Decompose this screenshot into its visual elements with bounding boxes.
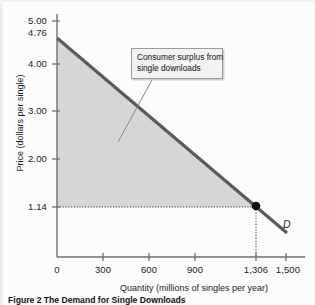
x-tick-label-1306: 1,306 <box>236 264 276 275</box>
equilibrium-point-marker <box>252 202 261 211</box>
x-tick-label-600: 600 <box>134 264 164 275</box>
x-tick-label-1500: 1,500 <box>271 264 305 275</box>
x-axis-title: Quantity (millions of singles per year) <box>120 283 268 293</box>
y-tick-label-5-00: 5.00 <box>13 15 47 26</box>
x-tick-label-900: 900 <box>180 264 210 275</box>
y-axis-title: Price (dollars per single) <box>15 63 25 183</box>
demand-curve-label: D <box>283 218 291 230</box>
figure-caption: Figure 2 The Demand for Single Downloads <box>8 295 308 305</box>
annotation-line-1: Consumer surplus from <box>137 52 218 63</box>
x-tick-label-300: 300 <box>88 264 118 275</box>
x-tick-label-0: 0 <box>47 264 67 275</box>
annotation-line-2: single downloads <box>137 63 218 74</box>
chart-plot-area <box>0 0 315 305</box>
figure-container: 5.00 4.76 4.00 3.00 2.00 1.14 0 300 600 … <box>0 0 315 305</box>
consumer-surplus-annotation: Consumer surplus from single downloads <box>131 48 223 79</box>
y-tick-label-4-76: 4.76 <box>13 27 47 38</box>
y-tick-label-1-14: 1.14 <box>13 201 47 212</box>
